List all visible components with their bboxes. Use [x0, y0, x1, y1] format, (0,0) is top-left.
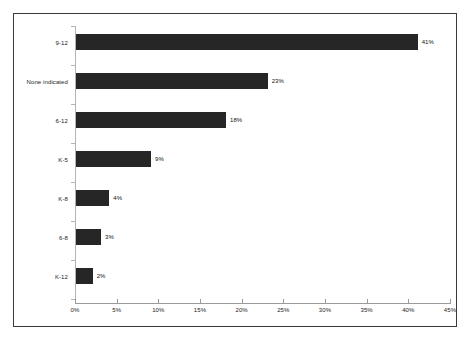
value-axis-label-3: 15%	[185, 307, 215, 313]
category-axis-tick	[71, 143, 76, 144]
category-label-1: None indicated	[10, 79, 68, 85]
bar-value-label-3: 9%	[155, 156, 164, 162]
bar-value-label-2: 18%	[230, 117, 242, 123]
value-axis-tick	[283, 299, 284, 304]
category-label-0: 9-12	[10, 40, 68, 46]
category-axis-tick	[71, 26, 76, 27]
bar-value-label-4: 4%	[113, 195, 122, 201]
category-label-2: 6-12	[10, 118, 68, 124]
value-axis-tick	[158, 299, 159, 304]
value-axis-label-8: 40%	[393, 307, 423, 313]
bar-chart: 9-12 None indicated 6-12 K-5 K-8 6-8 K-1…	[0, 0, 471, 341]
bar-k-8	[76, 190, 109, 206]
value-axis-tick	[408, 299, 409, 304]
category-label-6: K-12	[10, 274, 68, 280]
value-axis-label-4: 20%	[227, 307, 257, 313]
bar-9-12	[76, 34, 418, 50]
bar-value-label-0: 41%	[422, 39, 434, 45]
value-axis-label-0: 0%	[60, 307, 90, 313]
bar-6-8	[76, 229, 101, 245]
value-axis-label-6: 30%	[310, 307, 340, 313]
value-axis-label-9: 45%	[435, 307, 465, 313]
bar-6-12	[76, 112, 226, 128]
value-axis-line	[75, 303, 451, 304]
value-axis-tick	[242, 299, 243, 304]
bar-value-label-5: 3%	[105, 234, 114, 240]
category-label-5: 6-8	[10, 235, 68, 241]
bar-value-label-6: 2%	[97, 273, 106, 279]
value-axis-tick	[450, 299, 451, 304]
value-axis-label-5: 25%	[268, 307, 298, 313]
value-axis-label-1: 5%	[102, 307, 132, 313]
bar-k-5	[76, 151, 151, 167]
category-axis-tick	[71, 65, 76, 66]
category-axis-tick	[71, 104, 76, 105]
value-axis-label-7: 35%	[352, 307, 382, 313]
bar-none-indicated	[76, 73, 268, 89]
category-label-4: K-8	[10, 196, 68, 202]
value-axis-tick	[367, 299, 368, 304]
value-axis-label-2: 10%	[143, 307, 173, 313]
bar-value-label-1: 23%	[272, 78, 284, 84]
value-axis-tick	[325, 299, 326, 304]
value-axis-tick	[117, 299, 118, 304]
category-axis-tick	[71, 182, 76, 183]
bar-k-12	[76, 268, 93, 284]
category-axis-tick	[71, 260, 76, 261]
value-axis-tick	[200, 299, 201, 304]
value-axis-tick	[75, 299, 76, 304]
plot-area: 9-12 None indicated 6-12 K-5 K-8 6-8 K-1…	[0, 0, 471, 341]
category-axis-tick	[71, 221, 76, 222]
category-label-3: K-5	[10, 157, 68, 163]
